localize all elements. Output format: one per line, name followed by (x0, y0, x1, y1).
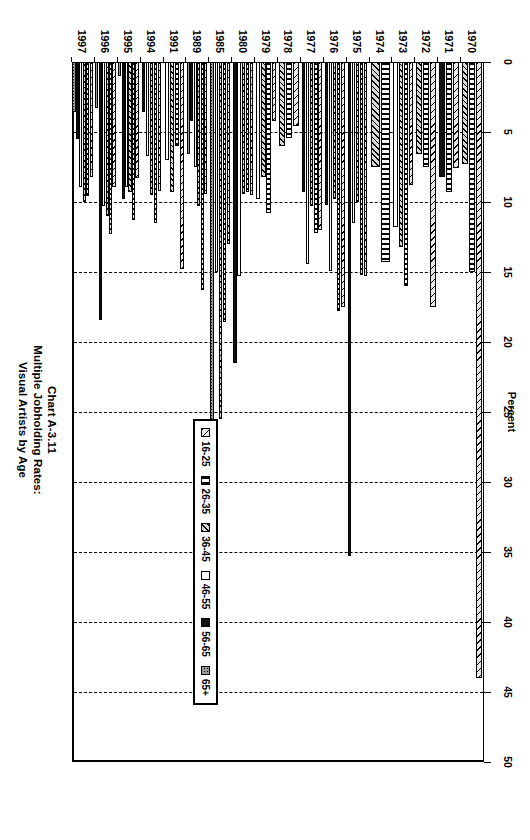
bar-1989-36-45 (197, 62, 200, 206)
legend: 16-2526-3536-4546-5556-6565+ (193, 419, 218, 705)
bar-1974-26-35 (381, 62, 390, 262)
legend-swatch-26-35 (201, 476, 210, 485)
legend-swatch-46-55 (201, 571, 210, 580)
legend-swatch-56-65 (201, 618, 210, 627)
bar-1996-65+ (95, 62, 98, 108)
legend-item-46-55: 46-55 (200, 571, 211, 610)
y-axis-label-1995: 1995 (122, 30, 134, 53)
legend-item-16-25: 16-25 (200, 428, 211, 467)
bar-1972-16-25 (430, 62, 436, 307)
bar-1975-36-45 (356, 62, 359, 202)
bar-1991-46-55 (165, 62, 169, 160)
y-tick-1974 (369, 57, 370, 62)
bar-1995-26-35 (132, 62, 135, 220)
bar-1980-56-65 (233, 62, 236, 363)
y-axis-label-1980: 1980 (237, 30, 249, 53)
bar-1975-26-35 (360, 62, 363, 275)
y-axis-label-1976: 1976 (328, 30, 340, 53)
bar-group-1979: 1979 (254, 62, 277, 762)
bar-1996-36-45 (106, 62, 109, 216)
bar-1971-26-35 (446, 62, 452, 192)
bar-group-1973: 1973 (391, 62, 414, 762)
bar-1979-16-25 (272, 62, 276, 121)
bar-1997-46-55 (79, 62, 82, 187)
y-tick-1976 (323, 57, 324, 62)
y-axis-label-1977: 1977 (305, 30, 317, 53)
bar-1977-56-65 (302, 62, 305, 192)
bar-1989-56-65 (190, 62, 193, 121)
bar-1994-56-65 (142, 62, 145, 112)
legend-label-26-35: 26-35 (200, 489, 211, 515)
bar-group-1971: 1971 (437, 62, 460, 762)
bar-groups: 1970197119721973197419751976197719781979… (74, 62, 483, 762)
y-tick-1975 (346, 57, 347, 62)
y-axis-label-1985: 1985 (214, 30, 226, 53)
bar-1985-36-45 (219, 62, 222, 419)
x-tick-20 (484, 342, 491, 343)
bar-1976-16-25 (341, 62, 344, 307)
bar-1996-56-65 (99, 62, 102, 320)
x-tick-25 (484, 412, 491, 413)
bar-1978-26-35 (286, 62, 292, 138)
bar-1985-16-25 (227, 62, 230, 244)
y-axis-label-1970: 1970 (466, 30, 478, 53)
bar-group-1996: 1996 (94, 62, 117, 762)
plot-area: Percent 05101520253035404550 19701971197… (72, 62, 484, 762)
bar-1973-16-25 (409, 62, 413, 185)
y-tick-1978 (277, 57, 278, 62)
title-line-3: Visual Artists by Age (16, 0, 30, 840)
x-tick-label-0: 0 (502, 59, 514, 65)
bar-1976-56-65 (325, 62, 328, 205)
bar-1985-46-55 (215, 62, 218, 272)
legend-item-36-45: 36-45 (200, 523, 211, 562)
bar-1995-65+ (118, 62, 121, 76)
bar-1991-36-45 (170, 62, 174, 192)
bar-1996-16-25 (112, 62, 115, 187)
bar-1973-36-45 (399, 62, 403, 247)
y-tick-1972 (414, 57, 415, 62)
bar-1989-16-25 (204, 62, 207, 194)
bar-1972-26-35 (423, 62, 429, 167)
x-tick-0 (484, 62, 491, 63)
bar-group-1978: 1978 (277, 62, 300, 762)
x-tick-label-45: 45 (502, 686, 514, 698)
legend-item-65+: 65+ (200, 666, 211, 696)
bar-1980-16-25 (250, 62, 253, 195)
bar-1979-36-45 (261, 62, 265, 177)
chart-page: Chart A-3.11 Multiple Jobholding Rates: … (0, 0, 530, 840)
bar-1995-46-55 (125, 62, 128, 187)
bar-1995-56-65 (122, 62, 125, 199)
bar-1975-56-65 (348, 62, 351, 556)
legend-swatch-36-45 (201, 523, 210, 532)
x-tick-label-50: 50 (502, 756, 514, 768)
y-axis-label-1973: 1973 (397, 30, 409, 53)
bar-1978-16-25 (293, 62, 299, 126)
y-axis-label-1997: 1997 (76, 30, 88, 53)
bar-1974-36-45 (371, 62, 380, 167)
legend-label-36-45: 36-45 (200, 536, 211, 562)
legend-item-56-65: 56-65 (200, 618, 211, 657)
bar-group-1976: 1976 (323, 62, 346, 762)
y-tick-1979 (254, 57, 255, 62)
bar-group-1970: 1970 (460, 62, 483, 762)
bar-1980-36-45 (242, 62, 245, 194)
bar-1972-36-45 (416, 62, 422, 154)
y-axis-label-1978: 1978 (282, 30, 294, 53)
x-tick-label-20: 20 (502, 336, 514, 348)
y-tick-1970 (460, 57, 461, 62)
x-tick-45 (484, 692, 491, 693)
bar-1994-46-55 (146, 62, 149, 156)
x-tick-35 (484, 552, 491, 553)
bar-1980-26-35 (246, 62, 249, 192)
x-tick-label-40: 40 (502, 616, 514, 628)
bar-1997-56-65 (76, 62, 79, 139)
bar-group-1994: 1994 (140, 62, 163, 762)
bar-1973-46-55 (394, 62, 398, 227)
bar-1996-26-35 (109, 62, 112, 234)
bar-1980-46-55 (237, 62, 240, 276)
bar-1996-46-55 (102, 62, 105, 206)
bar-1975-46-55 (352, 62, 355, 223)
y-tick-1991 (163, 57, 164, 62)
x-tick-15 (484, 272, 491, 273)
bar-group-1995: 1995 (117, 62, 140, 762)
